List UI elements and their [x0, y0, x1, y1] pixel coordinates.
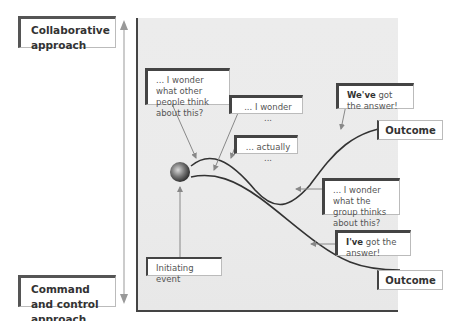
callout-actually: ... actually ... [234, 135, 298, 154]
weve-bold-text: We've [347, 90, 376, 100]
callout-pointers [172, 104, 346, 257]
callout-ive-got-answer: I've got the answer! [335, 230, 411, 256]
ive-bold-text: I've [346, 237, 363, 247]
callout-initiating-event: Initiating event [146, 257, 222, 276]
vertical-axis-arrow [120, 20, 128, 304]
callout-i-wonder: ... I wonder ... [229, 95, 303, 114]
command-control-approach-label: Command and control approach [18, 275, 116, 307]
callout-weve-got-answer: We've got the answer! [336, 83, 414, 109]
outcome-bottom: Outcome [377, 270, 443, 290]
callout-group-thinks: ... I wonder what the group thinks about… [322, 178, 400, 215]
collaborative-approach-label: Collaborative approach [18, 16, 116, 48]
callout-others-think: ... I wonder what other people think abo… [145, 68, 230, 105]
initiating-event-sphere [170, 162, 190, 182]
outcome-top: Outcome [377, 120, 443, 140]
